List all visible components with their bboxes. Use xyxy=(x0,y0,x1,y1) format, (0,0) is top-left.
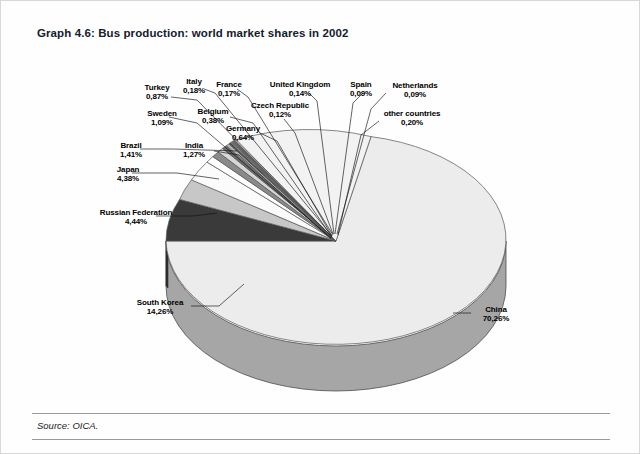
graph-page: Graph 4.6: Bus production: world market … xyxy=(0,0,640,454)
pie-label-belgium-name: Belgium xyxy=(190,107,236,116)
pie-label-japan-percent: 4,38% xyxy=(109,174,147,183)
pie-label-japan: Japan 4,38% xyxy=(109,165,147,183)
pie-top-face xyxy=(166,130,506,345)
pie-label-france: France 0,17% xyxy=(210,80,248,98)
pie-label-other-countries: other countries 0,20% xyxy=(376,109,448,127)
pie-label-south-korea-name: South Korea xyxy=(122,298,198,307)
pie-label-other-countries-name: other countries xyxy=(376,109,448,118)
pie-label-turkey-name: Turkey xyxy=(135,83,179,92)
pie-label-india-percent: 1,27% xyxy=(176,150,212,159)
pie-label-turkey: Turkey 0,87% xyxy=(135,83,179,101)
pie-chart-svg xyxy=(1,1,640,454)
pie-label-south-korea-percent: 14,26% xyxy=(122,307,198,316)
pie-label-united-kingdom-name: United Kingdom xyxy=(260,80,340,89)
pie-label-netherlands-name: Netherlands xyxy=(384,81,446,90)
pie-label-brazil: Brazil 1,41% xyxy=(111,141,151,159)
pie-label-brazil-percent: 1,41% xyxy=(111,150,151,159)
pie-label-other-countries-percent: 0,20% xyxy=(376,118,448,127)
footer-divider-bottom xyxy=(32,439,610,440)
pie-label-france-name: France xyxy=(210,80,248,89)
pie-label-sweden: Sweden 1,09% xyxy=(138,109,186,127)
pie-label-south-korea: South Korea 14,26% xyxy=(122,298,198,316)
pie-label-brazil-name: Brazil xyxy=(111,141,151,150)
pie-label-spain-name: Spain xyxy=(342,80,380,89)
pie-label-czech-republic-name: Czech Republic xyxy=(240,101,320,110)
pie-label-russian-federation: Russian Federation 4,44% xyxy=(86,208,186,226)
pie-label-germany: Germany 0,64% xyxy=(219,124,267,142)
source-note: Source: OICA. xyxy=(37,420,98,431)
pie-label-france-percent: 0,17% xyxy=(210,89,248,98)
footer-divider-top xyxy=(32,413,610,414)
pie-label-italy: Italy 0,18% xyxy=(177,77,211,95)
pie-label-spain: Spain 0,09% xyxy=(342,80,380,98)
pie-label-united-kingdom-percent: 0,14% xyxy=(260,89,340,98)
pie-label-russian-federation-percent: 4,44% xyxy=(86,217,186,226)
pie-label-czech-republic: Czech Republic 0,12% xyxy=(240,101,320,119)
pie-label-sweden-name: Sweden xyxy=(138,109,186,118)
pie-label-sweden-percent: 1,09% xyxy=(138,118,186,127)
pie-label-china: China 70,26% xyxy=(473,305,519,323)
pie-label-spain-percent: 0,09% xyxy=(342,89,380,98)
pie-label-turkey-percent: 0,87% xyxy=(135,92,179,101)
pie-label-japan-name: Japan xyxy=(109,165,147,174)
pie-label-india-name: India xyxy=(176,141,212,150)
pie-label-china-name: China xyxy=(473,305,519,314)
pie-label-netherlands-percent: 0,09% xyxy=(384,90,446,99)
pie-chart xyxy=(1,1,640,454)
pie-label-russian-federation-name: Russian Federation xyxy=(86,208,186,217)
pie-label-united-kingdom: United Kingdom 0,14% xyxy=(260,80,340,98)
pie-label-netherlands: Netherlands 0,09% xyxy=(384,81,446,99)
pie-label-germany-name: Germany xyxy=(219,124,267,133)
pie-label-italy-percent: 0,18% xyxy=(177,86,211,95)
pie-label-belgium: Belgium 0,38% xyxy=(190,107,236,125)
pie-label-italy-name: Italy xyxy=(177,77,211,86)
pie-label-india: India 1,27% xyxy=(176,141,212,159)
pie-label-czech-republic-percent: 0,12% xyxy=(240,110,320,119)
pie-label-china-percent: 70,26% xyxy=(473,314,519,323)
pie-label-germany-percent: 0,64% xyxy=(219,133,267,142)
